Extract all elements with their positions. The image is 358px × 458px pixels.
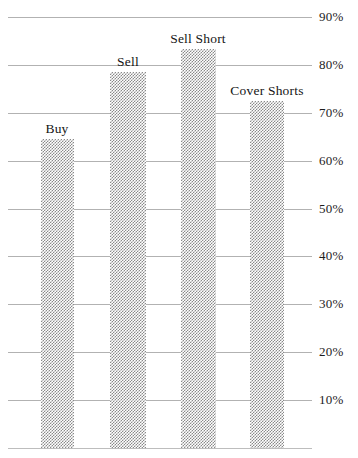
ytick-label-40: 40%	[319, 248, 358, 264]
plot-area: 90% 80% 70% 60% 50% 40% 30% 20% 10% Buy …	[0, 0, 358, 458]
bar-label-cover-shorts: Cover Shorts	[212, 83, 322, 99]
bar-chart: 90% 80% 70% 60% 50% 40% 30% 20% 10% Buy …	[0, 0, 358, 458]
bar-sell-short	[181, 49, 216, 448]
ytick-label-50: 50%	[319, 201, 358, 217]
ytick-label-80: 80%	[319, 57, 358, 73]
gridline-90	[8, 17, 312, 18]
bar-sell	[110, 72, 146, 448]
bar-buy	[41, 139, 74, 448]
ytick-label-90: 90%	[319, 9, 358, 25]
bar-label-buy: Buy	[17, 121, 97, 137]
bar-label-sell: Sell	[88, 54, 168, 70]
ytick-label-20: 20%	[319, 344, 358, 360]
ytick-label-70: 70%	[319, 105, 358, 121]
ytick-label-10: 10%	[319, 392, 358, 408]
ytick-label-30: 30%	[319, 296, 358, 312]
bar-cover-shorts	[250, 101, 284, 448]
ytick-label-60: 60%	[319, 153, 358, 169]
axis-baseline	[8, 448, 312, 449]
bar-label-sell-short: Sell Short	[148, 31, 248, 47]
chart-title	[0, 0, 312, 8]
